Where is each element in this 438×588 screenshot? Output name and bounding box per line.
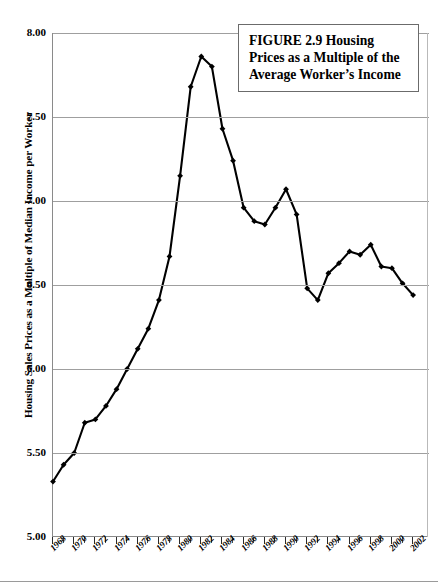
y-axis-tick-label: 7.00 <box>0 195 46 206</box>
gridline <box>53 453 429 454</box>
data-point-marker <box>82 420 88 426</box>
data-point-marker <box>156 297 162 303</box>
figure-title-box: FIGURE 2.9 Housing Prices as a Multiple … <box>238 24 419 92</box>
plot-area <box>52 33 428 537</box>
data-point-marker <box>220 126 226 132</box>
y-axis-tick-label: 5.50 <box>0 447 46 458</box>
data-point-marker <box>188 84 194 90</box>
figure-title-text: FIGURE 2.9 Housing Prices as a Multiple … <box>249 32 410 83</box>
page-bottom-rule <box>0 581 438 582</box>
data-point-marker <box>177 173 183 179</box>
figure-container: Housing Sales Prices as a Multiple of Me… <box>0 0 438 588</box>
plot-right-border <box>427 33 428 537</box>
y-axis-tick-label: 6.50 <box>0 279 46 290</box>
gridline <box>53 369 429 370</box>
data-point-marker <box>167 254 173 260</box>
y-axis-tick-labels: 8.007.507.006.506.005.505.00 <box>0 0 46 588</box>
y-axis-tick-label: 7.50 <box>0 111 46 122</box>
series-line <box>53 57 413 482</box>
y-axis-tick-label: 5.00 <box>0 531 46 542</box>
data-point-marker <box>294 212 300 218</box>
gridline <box>53 285 429 286</box>
y-axis-tick-label: 6.00 <box>0 363 46 374</box>
y-axis-tick-label: 8.00 <box>0 27 46 38</box>
data-point-marker <box>230 158 236 164</box>
gridline <box>53 201 429 202</box>
gridline <box>53 117 429 118</box>
